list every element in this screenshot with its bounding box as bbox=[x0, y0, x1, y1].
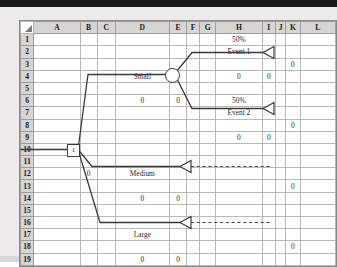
chance-node[interactable] bbox=[165, 68, 180, 83]
spreadsheet-grid[interactable]: A B C D E F G H I J K L 1 bbox=[19, 20, 337, 267]
decision-node[interactable]: 1 bbox=[67, 144, 80, 157]
top-dark-bar bbox=[0, 0, 337, 7]
tree-node-layer: 1 bbox=[20, 21, 336, 266]
